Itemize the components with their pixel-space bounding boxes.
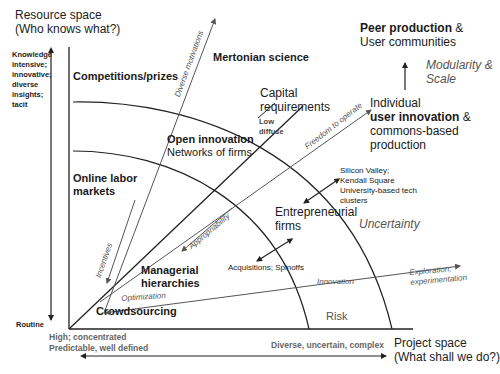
- optimization-arrow-line: [106, 306, 175, 313]
